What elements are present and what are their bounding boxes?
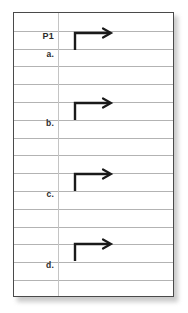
row-label-heading: P1 <box>14 31 54 41</box>
row-label-item-b: b. <box>14 118 54 128</box>
notebook-page: P1a.b.c.d. <box>0 0 188 313</box>
rule-line <box>14 280 173 281</box>
elbow-up-right-arrow-icon <box>70 168 126 192</box>
rule-line <box>14 84 173 85</box>
rule-line <box>14 66 173 67</box>
ruled-sheet: P1a.b.c.d. <box>13 12 174 297</box>
elbow-up-right-arrow-icon <box>70 27 126 51</box>
elbow-up-right-arrow-icon <box>70 238 126 262</box>
elbow-up-right-arrow-icon <box>70 97 126 121</box>
row-label-item-c: c. <box>14 189 54 199</box>
rule-line <box>14 138 173 139</box>
rule-line <box>14 209 173 210</box>
row-label-item-d: d. <box>14 260 54 270</box>
rule-line <box>14 227 173 228</box>
row-label-item-a: a. <box>14 49 54 59</box>
rule-line <box>14 155 173 156</box>
margin-divider-line <box>58 13 59 296</box>
